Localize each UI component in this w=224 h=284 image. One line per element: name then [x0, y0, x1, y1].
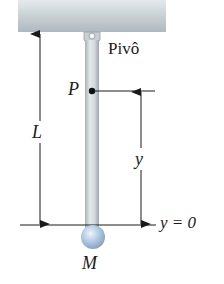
point-dot	[89, 88, 95, 94]
baseline-label: y = 0	[160, 214, 196, 231]
mass-ball	[81, 225, 105, 249]
ceiling	[18, 0, 166, 32]
pendulum-diagram: Pivô P L y y = 0 M	[0, 0, 224, 284]
pivot-label: Pivô	[108, 40, 139, 57]
length-label: L	[32, 121, 42, 143]
rod	[85, 40, 99, 228]
mass-label: M	[82, 254, 97, 272]
height-label: y	[135, 148, 143, 170]
point-label: P	[68, 80, 79, 98]
